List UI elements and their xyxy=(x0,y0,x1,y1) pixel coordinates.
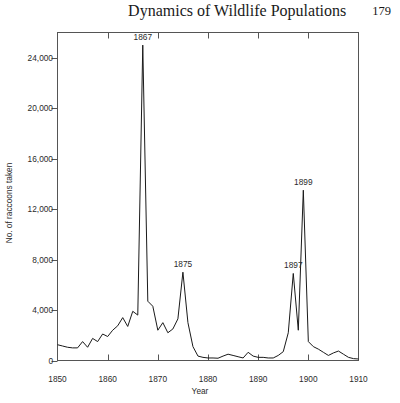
x-tick-label-group: 1850186018701880189019001910 xyxy=(0,0,400,403)
peak-annotation: 1867 xyxy=(121,32,165,42)
x-tick-label: 1890 xyxy=(236,374,280,384)
x-tick-label: 1900 xyxy=(286,374,330,384)
x-tick-label: 1910 xyxy=(337,374,381,384)
x-tick-label: 1870 xyxy=(136,374,180,384)
peak-annotation: 1899 xyxy=(281,177,325,187)
raccoon-harvest-chart: No. of raccoons taken Year 04,0008,00012… xyxy=(0,0,400,403)
figure-caption xyxy=(31,398,371,403)
x-tick-label: 1880 xyxy=(186,374,230,384)
peak-annotation: 1875 xyxy=(161,259,205,269)
x-tick-label: 1860 xyxy=(86,374,130,384)
peak-annotation: 1897 xyxy=(271,260,315,270)
x-tick-label: 1850 xyxy=(36,374,80,384)
